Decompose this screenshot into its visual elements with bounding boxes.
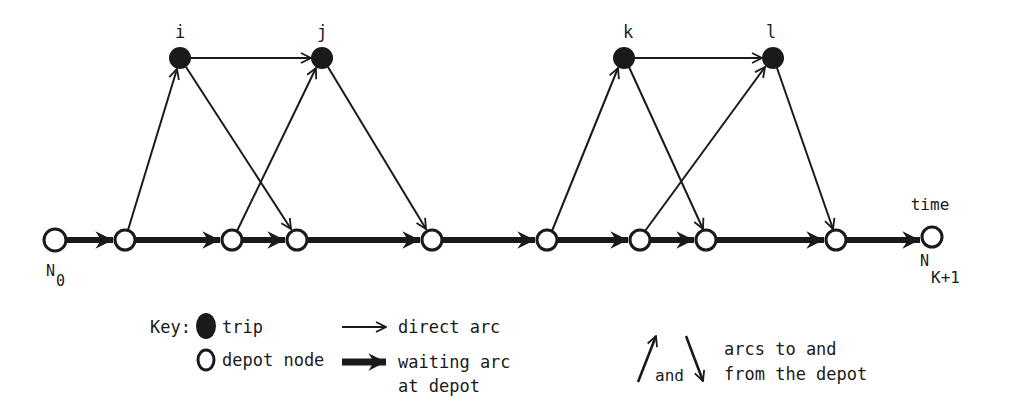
trip-label-j: j <box>317 22 327 42</box>
legend-depot-node-text: depot node <box>222 350 324 370</box>
depot-node <box>115 230 135 250</box>
trip-label-i: i <box>175 22 185 42</box>
time-axis-label: time <box>911 195 950 214</box>
legend-waiting-arc-text-2: at depot <box>398 376 480 396</box>
legend-direct-arc-text: direct arc <box>398 317 500 337</box>
pull-in-arcs <box>186 67 833 229</box>
trip-node-l <box>762 47 784 69</box>
depot-node <box>630 230 650 250</box>
legend-trip-text: trip <box>222 317 263 337</box>
legend-and-text: and <box>655 366 684 385</box>
depot-node <box>222 230 242 250</box>
depot-node <box>422 230 442 250</box>
legend-waiting-arc-text-1: waiting arc <box>398 352 511 372</box>
pull-out-arcs <box>128 67 765 231</box>
network-diagram: i j k l time N 0 N K+1 Key: trip depot n… <box>0 0 1013 415</box>
pull-out-arc-legend-icon <box>638 336 656 382</box>
legend-depot-arcs-text-2: from the depot <box>724 364 867 384</box>
depot-node <box>537 230 557 250</box>
depot-node-sink <box>922 227 942 247</box>
depot-node-legend-icon <box>198 350 214 370</box>
sink-subscript: K+1 <box>931 268 960 287</box>
source-label: N <box>46 262 55 280</box>
trip-legend-icon <box>196 313 216 339</box>
pull-in-arc-legend-icon <box>686 336 703 381</box>
legend-key-label: Key: <box>150 317 191 337</box>
sink-label: N <box>920 252 929 270</box>
depot-node <box>696 230 716 250</box>
legend: Key: trip depot node direct arc waiting … <box>150 313 867 396</box>
depot-node <box>287 230 307 250</box>
trip-node-i <box>169 47 191 69</box>
legend-depot-arcs-text-1: arcs to and <box>724 339 837 359</box>
trip-node-k <box>613 47 635 69</box>
trip-label-k: k <box>623 22 633 42</box>
depot-node-source <box>44 229 66 251</box>
source-subscript: 0 <box>56 272 65 290</box>
trip-node-j <box>311 47 333 69</box>
depot-node <box>826 230 846 250</box>
trip-label-l: l <box>766 22 776 42</box>
